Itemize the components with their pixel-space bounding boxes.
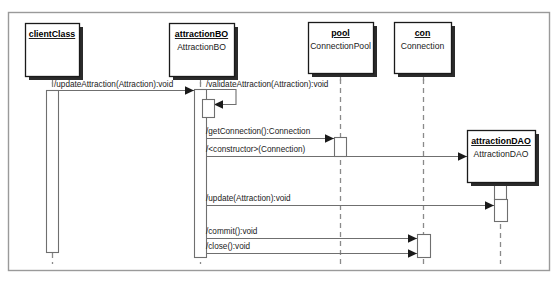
object-name-attractionBO: attractionBO [175,29,228,39]
object-name-clientClass: clientClass [29,29,76,39]
object-type-pool: ConnectionPool [310,41,371,51]
activation-pool-0 [335,138,347,157]
message-label-msg-update: /update(Attraction):void [206,194,291,203]
object-type-attractionBO: AttractionBO [177,42,226,52]
object-box-clientClass[interactable]: clientClass [26,24,80,77]
uml-sequence-diagram: clientClassattractionBOAttractionBOpoolC… [0,0,559,287]
object-type-con: Connection [401,41,445,51]
object-name-pool: pool [331,28,350,38]
object-type-attractionDAO: AttractionDAO [474,149,529,159]
object-name-attractionDAO: attractionDAO [471,136,531,146]
message-label-msg-commit: /commit():void [206,227,258,236]
message-label-msg-get-connection: /getConnection():Connection [206,127,311,136]
object-box-pool[interactable]: poolConnectionPool [309,23,374,74]
activation-con-0 [418,235,431,258]
diagram-canvas: clientClassattractionBOAttractionBOpoolC… [0,0,559,287]
activation-clientClass-0 [47,91,59,253]
activation-attractionBO-1 [203,100,215,118]
object-box-con[interactable]: conConnection [395,23,452,74]
object-box-attractionBO[interactable]: attractionBOAttractionBO [170,24,235,77]
object-name-con: con [415,28,431,38]
message-label-msg-constructor: /<constructor>(Connection) [206,145,305,154]
object-box-attractionDAO[interactable]: attractionDAOAttractionDAO [468,131,536,183]
message-label-msg-update-attraction: /updateAttraction(Attraction):void [54,80,174,89]
activation-attractionDAO-1 [495,200,508,222]
message-label-msg-close: /close():void [206,242,251,251]
message-label-msg-validate-attraction: /validateAttraction(Attraction):void [206,80,329,89]
